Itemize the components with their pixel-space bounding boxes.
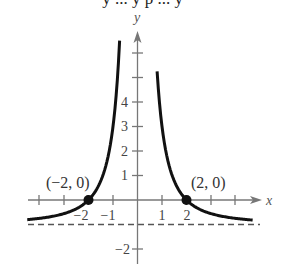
- point-label-left: (−2, 0): [46, 174, 90, 192]
- curve-right-branch: [157, 71, 253, 220]
- graph: x −2 −1 1 2 y 4 3 2 1 −2 (−2, 0) (2, 0): [0, 0, 285, 274]
- x-tick-label: −1: [101, 208, 116, 223]
- x-tick-label: 1: [159, 208, 166, 223]
- curve-left-branch: [27, 41, 119, 220]
- point-label-right: (2, 0): [191, 174, 226, 192]
- x-axis-label: x: [265, 193, 273, 208]
- y-tick-label: −2: [115, 242, 130, 257]
- point-neg2-0: [84, 195, 94, 205]
- x-tick-label: 2: [184, 208, 191, 223]
- y-tick-label: 1: [121, 168, 128, 183]
- point-2-0: [182, 195, 192, 205]
- y-tick-label: 3: [121, 119, 128, 134]
- y-axis-label: y: [132, 10, 141, 25]
- y-tick-label: 4: [121, 95, 128, 110]
- y-tick-label: 2: [121, 144, 128, 159]
